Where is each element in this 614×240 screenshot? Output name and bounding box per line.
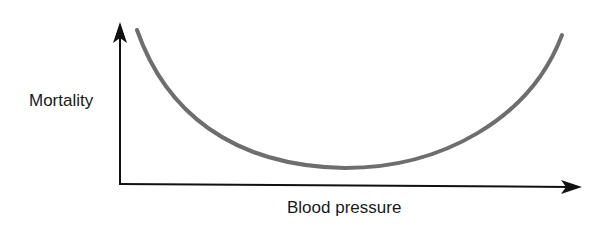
mortality-curve [137,30,562,168]
y-axis-label: Mortality [29,91,93,111]
x-axis-label: Blood pressure [287,198,401,218]
x-axis [119,184,570,187]
